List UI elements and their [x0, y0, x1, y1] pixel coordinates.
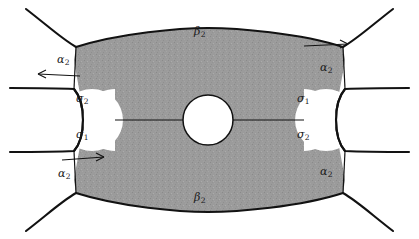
- label-sigma2-right-lower: σ2: [297, 129, 309, 140]
- diagram-canvas: β2 β2 α2 α2 α2 α2 σ2 σ1 σ1 σ2: [0, 0, 419, 239]
- label-beta2-bottom: β2: [194, 192, 205, 203]
- label-alpha2-bottom-left: α2: [58, 168, 70, 179]
- label-alpha2-top-right: α2: [320, 62, 332, 73]
- label-sigma1-left-lower: σ1: [76, 129, 88, 140]
- label-alpha2-top-left: α2: [57, 54, 69, 65]
- label-alpha2-bottom-right: α2: [320, 166, 332, 177]
- surface-diagram-svg: [0, 0, 419, 239]
- label-sigma1-right-upper: σ1: [297, 93, 309, 104]
- label-beta2-top: β2: [194, 26, 205, 37]
- label-sigma2-left-upper: σ2: [76, 93, 88, 104]
